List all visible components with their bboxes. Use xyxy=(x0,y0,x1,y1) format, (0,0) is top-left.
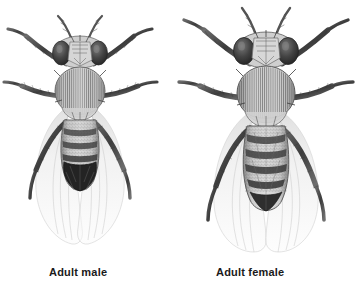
fly-specimen-male xyxy=(2,4,162,256)
male-eye-right xyxy=(90,41,108,65)
male-head xyxy=(53,35,108,68)
male-eye-left xyxy=(53,41,71,65)
female-eye-right xyxy=(278,38,299,65)
female-eye-left xyxy=(234,38,255,65)
female-head xyxy=(234,30,299,68)
caption-adult-female: Adult female xyxy=(216,266,284,278)
fly-comparison-figure: Adult male Adult female xyxy=(0,0,358,307)
female-abdomen xyxy=(243,126,289,211)
fly-specimen-female xyxy=(176,0,356,258)
caption-adult-male: Adult male xyxy=(49,266,107,278)
male-abdomen xyxy=(61,120,99,191)
